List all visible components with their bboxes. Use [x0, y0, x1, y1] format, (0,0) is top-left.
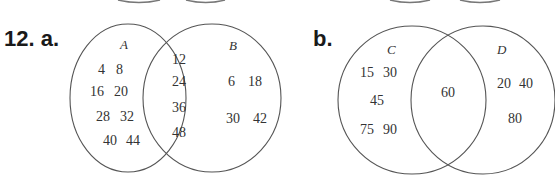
- element-only-d: 20: [497, 76, 511, 91]
- set-c-circle: [338, 26, 486, 174]
- element-only-b: 42: [253, 111, 267, 126]
- element-only-a: 32: [120, 109, 134, 124]
- element-only-b: 30: [226, 111, 240, 126]
- set-d-label: D: [496, 42, 507, 57]
- problem-number-label: 12. a.: [4, 26, 59, 51]
- arc-fragment-3: [390, 0, 430, 3]
- set-a-circle: [70, 24, 186, 172]
- set-a-label: A: [119, 37, 128, 52]
- element-only-a: 16: [90, 84, 104, 99]
- venn-diagrams-figure: 12. a. A B 4 8 16 20 28 32 40 44 12 24 3…: [0, 0, 555, 175]
- arc-fragment-1: [118, 0, 160, 3]
- element-only-b: 6: [228, 74, 235, 89]
- part-b-label: b.: [313, 26, 333, 51]
- set-b-label: B: [229, 38, 237, 53]
- set-c-label: C: [387, 42, 396, 57]
- previous-problem-arc-fragments: [118, 0, 500, 3]
- venn-diagram-a: A B 4 8 16 20 28 32 40 44 12 24 36 48 6 …: [70, 24, 281, 172]
- set-b-circle: [143, 24, 281, 172]
- arc-fragment-2: [186, 0, 225, 3]
- venn-diagram-b: C D 15 30 45 75 90 60 20 40 80: [338, 26, 555, 174]
- element-intersection-ab: 24: [172, 74, 186, 89]
- element-only-a: 28: [96, 109, 110, 124]
- element-only-c: 90: [383, 122, 397, 137]
- element-only-a: 8: [116, 62, 123, 77]
- element-only-d: 40: [519, 76, 533, 91]
- element-only-d: 80: [508, 111, 522, 126]
- element-only-a: 20: [114, 84, 128, 99]
- element-only-a: 40: [103, 133, 117, 148]
- element-only-a: 44: [126, 133, 140, 148]
- set-d-circle: [411, 26, 555, 174]
- element-only-a: 4: [98, 62, 105, 77]
- element-only-c: 30: [383, 65, 397, 80]
- element-intersection-ab: 12: [172, 52, 186, 67]
- element-only-c: 75: [360, 122, 374, 137]
- element-only-b: 18: [248, 74, 262, 89]
- arc-fragment-4: [460, 0, 500, 3]
- element-intersection-ab: 36: [172, 100, 186, 115]
- element-intersection-ab: 48: [172, 125, 186, 140]
- element-intersection-cd: 60: [441, 85, 455, 100]
- element-only-c: 15: [360, 65, 374, 80]
- element-only-c: 45: [370, 93, 384, 108]
